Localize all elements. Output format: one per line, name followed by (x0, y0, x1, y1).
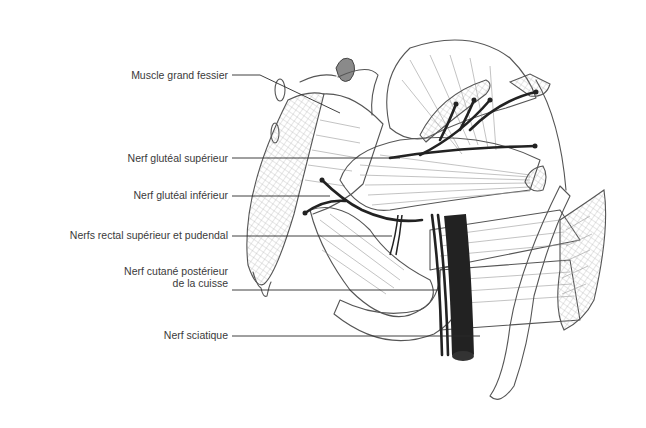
label-nerf-sciatique: Nerf sciatique (70, 329, 228, 341)
gluteus-maximus-sketch (247, 69, 383, 296)
label-nerf-gluteal-inferieur: Nerf glutéal inférieur (70, 189, 228, 201)
label-nerfs-rectal-pudendal: Nerfs rectal supérieur et pudendal (10, 229, 228, 241)
piriformis-sketch (340, 138, 546, 211)
label-nerf-cutane-posterieur: Nerf cutané postérieurde la cuisse (70, 265, 228, 289)
sciatic-nerve (432, 215, 474, 361)
label-muscle-grand-fessier: Muscle grand fessier (90, 69, 228, 81)
label-nerf-gluteal-superieur: Nerf glutéal supérieur (70, 152, 228, 164)
anatomy-diagram (0, 0, 646, 428)
